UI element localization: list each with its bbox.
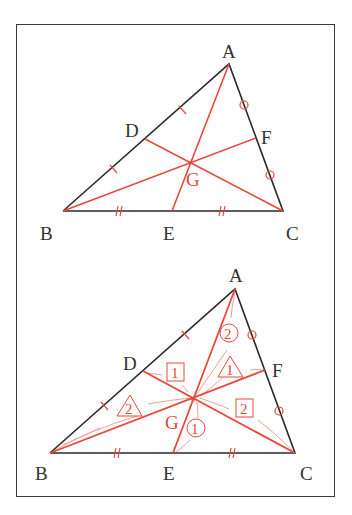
point-label-f: F bbox=[261, 127, 272, 148]
bottom-triangle-figure: 2 1 1 2 1 2 A B C D E F G bbox=[35, 265, 313, 484]
vertex-label-c: C bbox=[300, 463, 313, 484]
square-2-label: 2 bbox=[240, 401, 248, 417]
triangle-abc bbox=[63, 64, 283, 211]
tick-mark-ad bbox=[179, 106, 186, 114]
vertex-label-a: A bbox=[222, 41, 236, 62]
centroid-diagram: A B C D E F G bbox=[0, 0, 352, 515]
point-label-d: D bbox=[125, 120, 139, 141]
median-bf bbox=[50, 370, 265, 453]
vertex-label-a: A bbox=[229, 265, 243, 286]
centroid-label-g: G bbox=[186, 169, 200, 190]
point-label-f: F bbox=[272, 360, 283, 381]
median-bf bbox=[63, 138, 256, 211]
vertex-label-b: B bbox=[35, 463, 48, 484]
triangle-1-label: 1 bbox=[226, 362, 234, 378]
triangle-2-label: 2 bbox=[125, 401, 133, 417]
median-cd bbox=[145, 139, 283, 211]
vertex-label-b: B bbox=[40, 223, 53, 244]
circle-2-label: 2 bbox=[224, 326, 232, 342]
point-label-e: E bbox=[163, 223, 175, 244]
vertex-label-c: C bbox=[286, 223, 299, 244]
square-1-label: 1 bbox=[171, 365, 179, 381]
point-label-d: D bbox=[123, 353, 137, 374]
point-label-e: E bbox=[163, 463, 175, 484]
top-triangle-figure: A B C D E F G bbox=[40, 41, 299, 244]
centroid-point bbox=[188, 161, 192, 165]
centroid-point bbox=[191, 397, 195, 401]
centroid-label-g: G bbox=[165, 412, 179, 433]
median-ae bbox=[172, 64, 229, 211]
circle-1-label: 1 bbox=[191, 421, 199, 437]
